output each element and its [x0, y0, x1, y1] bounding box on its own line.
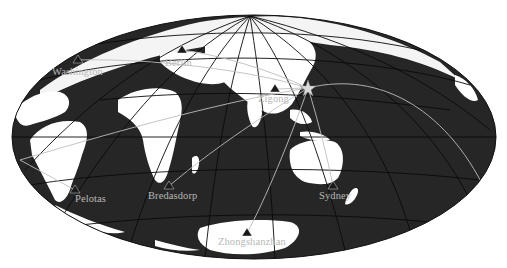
label-zhongshanzhan: Zhongshanzhan [218, 236, 286, 247]
label-pelotas: Pelotas [75, 193, 106, 204]
label-washington: Washington [52, 66, 103, 77]
label-berlin: Berlin [165, 57, 192, 68]
label-zigong: Zigong [258, 93, 289, 104]
world-map [0, 0, 507, 268]
label-sydney: Sydney [319, 190, 351, 201]
label-bredasdorp: Bredasdorp [148, 190, 197, 201]
